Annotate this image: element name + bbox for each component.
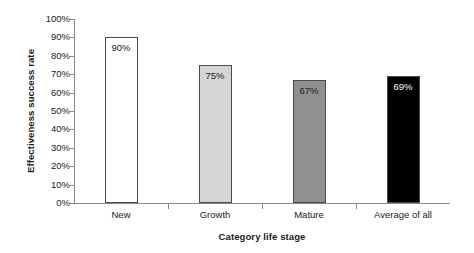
y-axis-tick [70,166,74,167]
x-axis-title: Category life stage [74,231,450,242]
y-axis-line [74,19,75,204]
y-axis-tick [70,56,74,57]
y-axis-tick-label: 40% [30,123,70,135]
y-axis-tick-label: 100% [30,13,70,25]
y-axis-tick-label: 90% [30,31,70,43]
x-axis-category-labels: NewGrowthMatureAverage of all [74,208,450,224]
x-axis-category-label: Growth [168,208,262,221]
y-axis-tick-label: 30% [30,142,70,154]
bar[interactable]: 90% [105,37,138,203]
bar-value-label: 69% [388,81,419,92]
bar[interactable]: 67% [293,80,326,203]
plot-area: 90%75%67%69% [74,19,450,203]
x-axis-category-label: New [74,208,168,221]
y-axis-tick [70,203,74,204]
bar[interactable]: 75% [199,65,232,203]
y-axis-tick-label: 0% [30,197,70,209]
y-axis-tick-labels: 100%90%80%70%60%50%40%30%20%10%0% [30,13,70,209]
y-axis-tick [70,129,74,130]
x-axis-category-label: Mature [262,208,356,221]
y-axis-tick [70,37,74,38]
bar-value-label: 75% [200,70,231,81]
x-axis-category-label: Average of all [356,208,450,221]
y-axis-tick-label: 80% [30,50,70,62]
y-axis-tick [70,74,74,75]
y-axis-tick [70,19,74,20]
y-axis-tick-label: 10% [30,179,70,191]
bar-chart: Effectiveness success rate 100%90%80%70%… [0,0,474,253]
y-axis-tick [70,185,74,186]
bar[interactable]: 69% [387,76,420,203]
y-axis-tick [70,148,74,149]
bar-value-label: 67% [294,85,325,96]
y-axis-tick-label: 20% [30,160,70,172]
y-axis-tick [70,111,74,112]
y-axis-tick-label: 70% [30,68,70,80]
y-axis-tick [70,93,74,94]
bar-value-label: 90% [106,42,137,53]
y-axis-tick-label: 50% [30,105,70,117]
y-axis-tick-label: 60% [30,87,70,99]
